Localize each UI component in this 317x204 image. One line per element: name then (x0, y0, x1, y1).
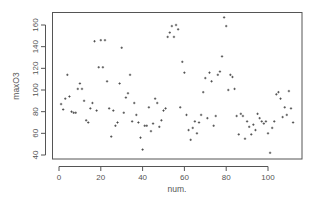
y-axis: 406080100120140160 (31, 18, 46, 160)
data-point (177, 28, 179, 30)
data-point (137, 121, 139, 123)
data-point (210, 80, 212, 82)
y-tick-label: 160 (31, 18, 40, 32)
data-point (185, 114, 187, 116)
y-tick-label: 80 (31, 107, 40, 116)
y-axis-title: maxO3 (11, 72, 21, 100)
data-point (60, 103, 62, 105)
data-point (89, 107, 91, 109)
data-point (95, 109, 97, 111)
data-point (81, 88, 83, 90)
data-point (131, 120, 133, 122)
data-point (179, 106, 181, 108)
data-point (286, 114, 288, 116)
data-point (83, 100, 85, 102)
data-point (212, 125, 214, 127)
data-point (108, 107, 110, 109)
x-tick-label: 40 (138, 173, 147, 182)
data-point (238, 133, 240, 135)
data-point (244, 138, 246, 140)
data-point (72, 112, 74, 114)
data-point (154, 97, 156, 99)
data-point (106, 80, 108, 82)
data-point (104, 39, 106, 41)
data-point (166, 36, 168, 38)
data-point (87, 121, 89, 123)
y-tick-label: 120 (31, 61, 40, 75)
data-point (133, 102, 135, 104)
data-point (279, 97, 281, 99)
data-point (261, 120, 263, 122)
data-point (116, 121, 118, 123)
data-point (143, 125, 145, 127)
data-point (225, 25, 227, 27)
data-point (112, 109, 114, 111)
x-axis: 020406080100 (57, 167, 275, 183)
data-point (64, 97, 66, 99)
data-point (204, 77, 206, 79)
data-point (208, 71, 210, 73)
data-point (277, 91, 279, 93)
data-point (148, 106, 150, 108)
data-point (160, 119, 162, 121)
data-point (246, 120, 248, 122)
data-point (146, 125, 148, 127)
data-point (189, 139, 191, 141)
data-point (202, 91, 204, 93)
data-point (194, 120, 196, 122)
data-point (231, 76, 233, 78)
scatter-chart: 406080100120140160 020406080100 maxO3 nu… (0, 0, 317, 204)
data-point (123, 112, 125, 114)
data-point (141, 148, 143, 150)
data-point (183, 71, 185, 73)
data-point (258, 117, 260, 119)
data-point (91, 102, 93, 104)
data-point (62, 108, 64, 110)
data-point (192, 127, 194, 129)
data-point (227, 89, 229, 91)
data-point (75, 112, 77, 114)
data-point (66, 74, 68, 76)
y-tick-label: 100 (31, 83, 40, 97)
data-point (152, 122, 154, 124)
y-tick-label: 40 (31, 150, 40, 159)
data-point (223, 16, 225, 18)
x-tick-label: 100 (261, 173, 275, 182)
data-point (100, 39, 102, 41)
data-point (229, 74, 231, 76)
data-point (256, 113, 258, 115)
data-point (110, 135, 112, 137)
data-point (139, 136, 141, 138)
data-point (98, 66, 100, 68)
data-point (219, 70, 221, 72)
data-point (93, 40, 95, 42)
data-point (121, 47, 123, 49)
data-point (273, 120, 275, 122)
data-point (171, 25, 173, 27)
data-point (114, 125, 116, 127)
data-point (284, 106, 286, 108)
data-point (269, 152, 271, 154)
data-point (248, 126, 250, 128)
data-point (129, 74, 131, 76)
y-tick-label: 140 (31, 39, 40, 53)
data-point (242, 115, 244, 117)
data-point (215, 115, 217, 117)
data-point (235, 115, 237, 117)
data-point (221, 55, 223, 57)
data-point (263, 122, 265, 124)
data-point (162, 109, 164, 111)
data-point (275, 93, 277, 95)
data-point (271, 127, 273, 129)
y-tick-label: 60 (31, 128, 40, 137)
data-point (127, 92, 129, 94)
data-point (125, 96, 127, 98)
data-point (290, 107, 292, 109)
plot-box (53, 13, 303, 160)
data-point (240, 113, 242, 115)
data-point (187, 129, 189, 131)
data-point (68, 95, 70, 97)
data-point (267, 132, 269, 134)
x-tick-label: 20 (96, 173, 105, 182)
data-point (233, 88, 235, 90)
